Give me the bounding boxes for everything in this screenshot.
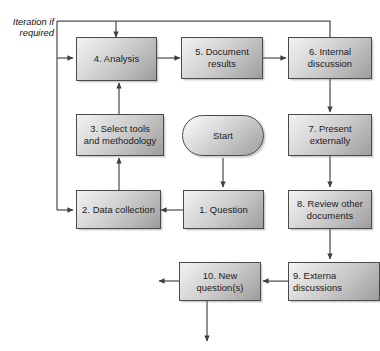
node-3-select-tools[interactable]: 3. Select toolsand methodology bbox=[76, 114, 164, 156]
node-8-review-other-documents[interactable]: 8. Review otherdocuments bbox=[288, 190, 372, 229]
node-6-line2: discussion bbox=[308, 58, 352, 69]
node-2-data-collection[interactable]: 2. Data collection bbox=[76, 190, 161, 229]
node-8-line1: 8. Review other bbox=[297, 198, 363, 209]
node-9-line2: discussions bbox=[293, 282, 342, 293]
node-5-line1: 5. Document bbox=[195, 46, 249, 57]
node-5-line2: results bbox=[208, 58, 236, 69]
node-9-external-discussions[interactable]: 9. Externadiscussions bbox=[288, 262, 380, 301]
node-2-data-collection-label: 2. Data collection bbox=[79, 204, 158, 216]
flowchart-diagram: Iteration if required 4. Analysis 5. Doc… bbox=[0, 0, 380, 351]
node-10-new-questions[interactable]: 10. Newquestion(s) bbox=[179, 262, 261, 301]
node-7-present-externally-label: 7. Presentexternally bbox=[305, 123, 354, 146]
node-9-line1: 9. Externa bbox=[293, 270, 336, 281]
iteration-caption-line1: Iteration if bbox=[2, 16, 54, 27]
node-8-review-documents-label: 8. Review otherdocuments bbox=[294, 198, 366, 221]
node-10-new-questions-label: 10. Newquestion(s) bbox=[194, 270, 247, 293]
node-7-present-externally[interactable]: 7. Presentexternally bbox=[288, 114, 372, 156]
node-6-internal-discussion[interactable]: 6. Internaldiscussion bbox=[288, 37, 372, 79]
node-5-document-results[interactable]: 5. Documentresults bbox=[181, 37, 263, 79]
node-4-analysis-label: 4. Analysis bbox=[91, 53, 142, 65]
node-1-question[interactable]: 1. Question bbox=[183, 190, 264, 229]
node-6-internal-discussion-label: 6. Internaldiscussion bbox=[305, 46, 355, 69]
node-3-line1: 3. Select tools bbox=[90, 123, 150, 134]
node-7-line2: externally bbox=[310, 135, 351, 146]
iteration-caption: Iteration if required bbox=[2, 16, 54, 39]
iteration-caption-line2: required bbox=[2, 27, 54, 38]
connector-iteration-top bbox=[57, 21, 330, 37]
node-3-line2: and methodology bbox=[84, 135, 157, 146]
node-7-line1: 7. Present bbox=[308, 123, 351, 134]
node-1-question-label: 1. Question bbox=[196, 204, 251, 216]
node-10-line2: question(s) bbox=[197, 282, 244, 293]
node-6-line1: 6. Internal bbox=[309, 46, 351, 57]
node-4-analysis[interactable]: 4. Analysis bbox=[76, 37, 157, 81]
node-9-external-discussions-label: 9. Externadiscussions bbox=[289, 270, 379, 293]
node-5-document-results-label: 5. Documentresults bbox=[192, 46, 252, 69]
node-start[interactable]: Start bbox=[182, 115, 264, 156]
node-3-select-tools-label: 3. Select toolsand methodology bbox=[81, 123, 160, 146]
node-start-label: Start bbox=[210, 130, 236, 142]
node-8-line2: documents bbox=[307, 210, 353, 221]
node-10-line1: 10. New bbox=[203, 270, 238, 281]
